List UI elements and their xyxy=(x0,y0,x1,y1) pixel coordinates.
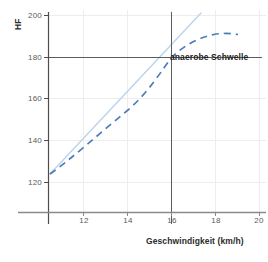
y-axis-title: HF xyxy=(13,18,23,30)
y-tick-label-180: 180 xyxy=(16,53,42,62)
tangent-line xyxy=(50,13,201,174)
x-tick-label-20: 20 xyxy=(249,216,268,225)
x-axis-title: Geschwindigkeit (km/h) xyxy=(146,236,244,246)
y-tick-label-140: 140 xyxy=(16,136,42,145)
x-tick-label-18: 18 xyxy=(206,216,226,225)
y-gridlines xyxy=(48,16,266,183)
x-tick-label-16: 16 xyxy=(162,216,182,225)
y-tick-label-160: 160 xyxy=(16,94,42,103)
x-tick-label-14: 14 xyxy=(118,216,138,225)
x-tick-label-12: 12 xyxy=(74,216,94,225)
y-axis-ticks xyxy=(44,16,48,183)
anaerobic-threshold-label: anaerobe Schwelle xyxy=(170,52,248,62)
heart-rate-chart: 200 180 160 140 120 12 14 16 18 20 HF Ge… xyxy=(0,0,268,262)
y-tick-label-120: 120 xyxy=(16,178,42,187)
